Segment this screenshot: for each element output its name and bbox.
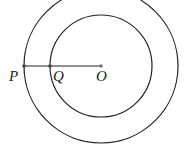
label-q: Q [53, 68, 64, 84]
label-p: P [8, 68, 18, 84]
concentric-circles-diagram: P Q O [0, 0, 187, 150]
label-o: O [96, 68, 107, 84]
point-p [22, 64, 26, 68]
point-q [48, 64, 52, 68]
